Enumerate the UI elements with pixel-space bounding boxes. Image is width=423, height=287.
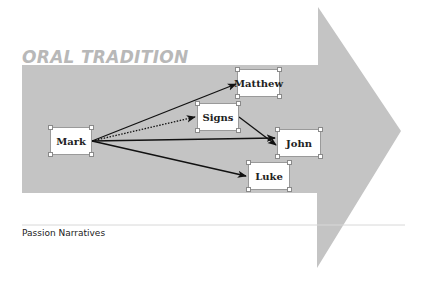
node-label: John [286,138,312,149]
resize-handle-icon [89,152,94,157]
resize-handle-icon [246,160,251,165]
diagram-canvas: ORAL TRADITION Mark Matthew Signs John L… [0,0,423,287]
resize-handle-icon [195,101,200,106]
node-signs[interactable]: Signs [197,103,239,131]
node-john[interactable]: John [277,129,321,157]
node-matthew[interactable]: Matthew [237,69,280,97]
passion-narratives-label: Passion Narratives [22,228,105,238]
resize-handle-icon [235,94,240,99]
node-label: Signs [203,112,234,123]
resize-handle-icon [48,125,53,130]
resize-handle-icon [235,67,240,72]
resize-handle-icon [275,154,280,159]
node-label: Mark [56,136,86,147]
resize-handle-icon [195,128,200,133]
resize-handle-icon [89,125,94,130]
node-mark[interactable]: Mark [50,127,92,155]
node-label: Luke [255,171,283,182]
resize-handle-icon [277,67,282,72]
resize-handle-icon [246,187,251,192]
resize-handle-icon [287,160,292,165]
oral-tradition-title: ORAL TRADITION [22,47,189,67]
resize-handle-icon [318,127,323,132]
resize-handle-icon [287,187,292,192]
resize-handle-icon [236,128,241,133]
node-label: Matthew [234,78,283,89]
resize-handle-icon [275,127,280,132]
resize-handle-icon [277,94,282,99]
resize-handle-icon [318,154,323,159]
resize-handle-icon [48,152,53,157]
resize-handle-icon [236,101,241,106]
node-luke[interactable]: Luke [248,162,290,190]
